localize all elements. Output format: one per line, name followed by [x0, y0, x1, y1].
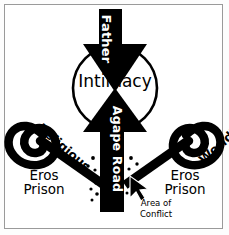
intimacy-label: Intimacy	[62, 73, 168, 91]
agape-road-label: Agape Road	[108, 114, 126, 184]
eros-prison-left-label: Eros Prison	[8, 168, 80, 196]
eros-prison-right-line-2: Prison	[149, 182, 221, 196]
father-label: Father	[75, 30, 137, 48]
area-of-conflict-line-2: Conflict	[126, 209, 186, 220]
eros-prison-left-line-1: Eros	[8, 168, 80, 182]
eros-prison-left-line-2: Prison	[8, 182, 80, 196]
diagram-figure: Father Intimacy Religious Worldly Agape …	[0, 0, 229, 235]
area-of-conflict-label: Area of Conflict	[126, 198, 186, 219]
eros-prison-right-label: Eros Prison	[149, 168, 221, 196]
eros-prison-right-line-1: Eros	[149, 168, 221, 182]
area-of-conflict-line-1: Area of	[126, 198, 186, 209]
